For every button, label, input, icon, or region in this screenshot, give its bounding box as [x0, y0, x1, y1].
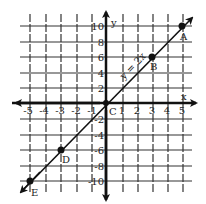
svg-text:A: A — [179, 31, 188, 42]
svg-text:E: E — [31, 187, 38, 198]
point-c — [103, 100, 109, 106]
svg-text:2: 2 — [134, 105, 140, 116]
svg-text:-5: -5 — [23, 105, 33, 116]
svg-text:5: 5 — [179, 105, 185, 116]
line-equation-label: y = 2x — [117, 50, 148, 82]
svg-text:-4: -4 — [39, 105, 49, 116]
x-axis-label: x — [181, 91, 187, 102]
svg-text:4: 4 — [164, 105, 170, 116]
svg-text:3: 3 — [149, 105, 155, 116]
coordinate-graph: y x C -5 -4 -3 -2 -1 1 2 3 4 5 10 8 6 4 … — [0, 0, 206, 204]
svg-text:D: D — [62, 154, 70, 165]
point-b: B — [149, 54, 158, 73]
svg-text:-10: -10 — [88, 176, 104, 187]
svg-text:2: 2 — [98, 83, 104, 94]
svg-text:10: 10 — [91, 21, 104, 32]
y-axis-label: y — [110, 17, 117, 28]
origin-label: C — [109, 106, 117, 117]
svg-text:1: 1 — [119, 105, 125, 116]
point-d: D — [58, 147, 71, 166]
svg-text:-6: -6 — [94, 145, 104, 156]
svg-text:6: 6 — [98, 52, 104, 63]
svg-text:-2: -2 — [94, 114, 104, 125]
svg-text:-4: -4 — [94, 130, 104, 141]
svg-text:8: 8 — [98, 37, 104, 48]
svg-text:4: 4 — [98, 68, 104, 79]
svg-text:B: B — [150, 61, 157, 72]
svg-text:-2: -2 — [71, 105, 81, 116]
svg-text:-8: -8 — [94, 161, 104, 172]
svg-text:-3: -3 — [55, 105, 65, 116]
